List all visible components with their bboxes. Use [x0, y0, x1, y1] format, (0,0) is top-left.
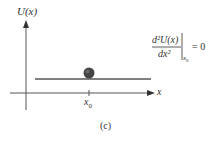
- y-axis-label: U(x): [17, 5, 37, 17]
- y-axis-label-text: U(x): [17, 5, 37, 17]
- formula-numerator-text: d²U(x): [152, 34, 178, 45]
- x-axis-label: x: [157, 86, 161, 97]
- formula-evaluated-at: x0: [183, 54, 189, 63]
- x0-tick-label: x0: [84, 96, 92, 110]
- formula-equals-text: = 0: [192, 41, 205, 52]
- x-axis-arrow-icon: [147, 90, 155, 96]
- caption: (c): [100, 120, 111, 131]
- ball: [84, 68, 95, 79]
- caption-text: (c): [100, 120, 111, 131]
- y-axis-arrow-icon: [23, 20, 29, 28]
- formula-eval-sub: 0: [186, 58, 189, 63]
- x-axis-label-text: x: [157, 86, 161, 97]
- formula-denominator-text: dx²: [158, 48, 170, 59]
- x0-label-sub: 0: [88, 102, 92, 110]
- formula-equals: = 0: [192, 41, 205, 52]
- formula-numerator: d²U(x): [152, 34, 178, 45]
- formula-denominator: dx²: [158, 48, 170, 59]
- ball-highlight: [86, 70, 90, 74]
